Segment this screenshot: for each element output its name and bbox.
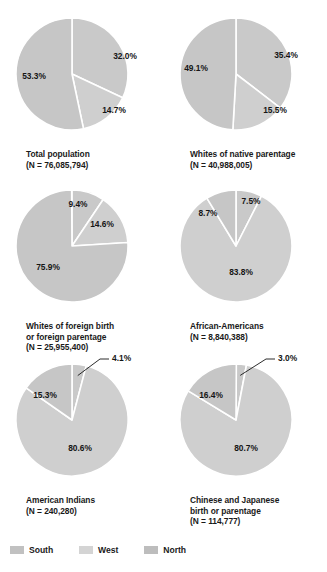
caption-line: Whites of foreign birth (26, 321, 163, 332)
pie-svg: 4.1%80.6%15.3% (0, 352, 163, 494)
caption-line: birth or parentage (190, 506, 327, 517)
pie-canvas: 9.4%14.6%75.9% (0, 178, 163, 320)
pie-canvas: 4.1%80.6%15.3% (0, 352, 163, 494)
pie-chart-figure: 32.0%14.7%53.3%Total population(N = 76,0… (0, 0, 327, 572)
legend-swatch-icon (79, 546, 93, 554)
slice-value-label: 49.1% (184, 63, 208, 73)
caption-line: (N = 114,777) (190, 516, 327, 527)
pie-slice[interactable] (180, 18, 236, 130)
legend-swatch-icon (10, 546, 24, 554)
slice-value-label: 3.0% (278, 353, 298, 363)
legend-label: North (163, 545, 186, 555)
legend-label: West (98, 545, 118, 555)
slice-value-label: 8.7% (198, 208, 218, 218)
legend-item-north[interactable]: North (144, 545, 186, 555)
pie-canvas: 7.5%83.8%8.7% (164, 178, 327, 320)
slice-value-label: 15.5% (263, 105, 287, 115)
slice-value-label: 53.3% (22, 71, 46, 81)
legend-item-south[interactable]: South (10, 545, 53, 555)
caption-line: Total population (26, 149, 163, 160)
slice-value-label: 14.6% (90, 219, 114, 229)
pie-svg: 35.4%15.5%49.1% (164, 6, 327, 148)
chart-caption: Chinese and Japanesebirth or parentage(N… (164, 495, 327, 527)
slice-value-label: 9.4% (68, 199, 88, 209)
legend: SouthWestNorth (0, 545, 327, 555)
slice-value-label: 80.6% (68, 443, 92, 453)
pie-chart-american-indians: 4.1%80.6%15.3%American Indians(N = 240,2… (0, 352, 163, 516)
pie-svg: 7.5%83.8%8.7% (164, 178, 327, 320)
slice-value-label: 14.7% (102, 105, 126, 115)
caption-line: or foreign parentage (26, 332, 163, 343)
pie-canvas: 32.0%14.7%53.3% (0, 6, 163, 148)
slice-value-label: 16.4% (199, 390, 223, 400)
caption-line: African-Americans (190, 321, 327, 332)
pie-chart-whites-foreign-birth: 9.4%14.6%75.9%Whites of foreign birthor … (0, 178, 163, 353)
pie-canvas: 35.4%15.5%49.1% (164, 6, 327, 148)
slice-value-label: 32.0% (113, 51, 137, 61)
pie-svg: 32.0%14.7%53.3% (0, 6, 163, 148)
slice-value-label: 83.8% (229, 267, 253, 277)
chart-caption: Whites of foreign birthor foreign parent… (0, 321, 163, 353)
legend-label: South (29, 545, 53, 555)
chart-caption: Whites of native parentage(N = 40,988,00… (164, 149, 327, 170)
caption-line: (N = 240,280) (26, 506, 163, 517)
chart-caption: American Indians(N = 240,280) (0, 495, 163, 516)
slice-value-label: 80.7% (234, 443, 258, 453)
legend-item-west[interactable]: West (79, 545, 118, 555)
chart-caption: Total population(N = 76,085,794) (0, 149, 163, 170)
legend-swatch-icon (144, 546, 158, 554)
pie-svg: 9.4%14.6%75.9% (0, 178, 163, 320)
slice-value-label: 15.3% (33, 390, 57, 400)
pie-chart-chinese-japanese: 3.0%80.7%16.4%Chinese and Japanesebirth … (164, 352, 327, 527)
slice-value-label: 75.9% (36, 262, 60, 272)
slice-value-label: 4.1% (112, 353, 132, 363)
caption-line: Chinese and Japanese (190, 495, 327, 506)
caption-line: Whites of native parentage (190, 149, 327, 160)
caption-line: (N = 76,085,794) (26, 160, 163, 171)
pie-chart-whites-native-parentage: 35.4%15.5%49.1%Whites of native parentag… (164, 6, 327, 170)
pie-chart-total-population: 32.0%14.7%53.3%Total population(N = 76,0… (0, 6, 163, 170)
pie-svg: 3.0%80.7%16.4% (164, 352, 327, 494)
chart-caption: African-Americans(N = 8,840,388) (164, 321, 327, 342)
caption-line: (N = 8,840,388) (190, 332, 327, 343)
pie-chart-african-americans: 7.5%83.8%8.7%African-Americans(N = 8,840… (164, 178, 327, 342)
caption-line: American Indians (26, 495, 163, 506)
caption-line: (N = 40,988,005) (190, 160, 327, 171)
slice-value-label: 7.5% (241, 196, 261, 206)
pie-canvas: 3.0%80.7%16.4% (164, 352, 327, 494)
slice-value-label: 35.4% (274, 50, 298, 60)
